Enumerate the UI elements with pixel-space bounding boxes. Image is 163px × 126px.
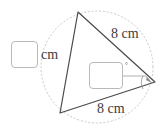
side-label-bottom: 8 cm bbox=[97, 102, 125, 116]
geometry-figure: cm 8 cm 8 cm ° bbox=[0, 0, 163, 126]
angle-arc-right-vertex bbox=[141, 76, 143, 89]
side-length-unit-label: cm bbox=[41, 48, 58, 62]
side-length-input[interactable] bbox=[11, 41, 38, 68]
angle-input[interactable] bbox=[89, 62, 123, 89]
degree-symbol-label: ° bbox=[125, 62, 128, 69]
side-label-right: 8 cm bbox=[111, 27, 139, 41]
